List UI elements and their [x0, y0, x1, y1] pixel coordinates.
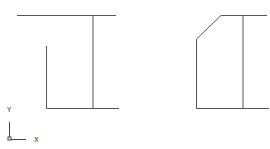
drawing-canvas: Y X — [0, 0, 269, 149]
left-view — [17, 16, 119, 109]
right-outline — [197, 16, 270, 109]
ucs-origin-square — [8, 137, 11, 140]
ucs-y-label: Y — [6, 106, 12, 114]
right-view — [197, 16, 270, 109]
ucs-x-label: X — [34, 136, 39, 144]
ucs-icon — [8, 122, 26, 140]
